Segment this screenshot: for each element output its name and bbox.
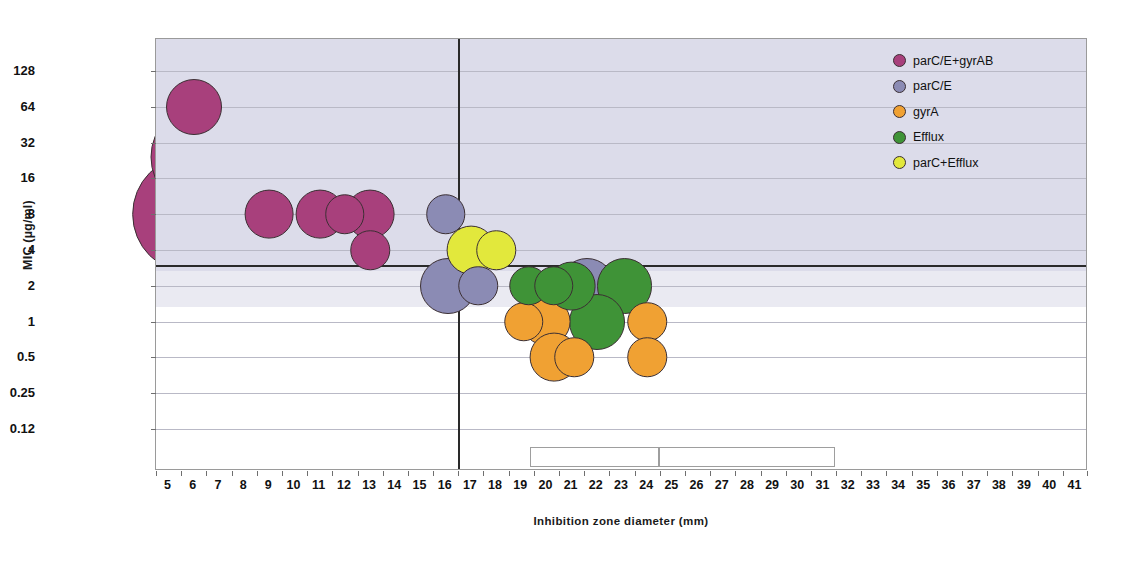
x-tick-label: 36	[935, 478, 961, 492]
y-tick-mark	[151, 71, 156, 72]
x-tick-label: 15	[406, 478, 432, 492]
legend-swatch-icon	[893, 105, 906, 118]
legend-item[interactable]: parC+Efflux	[893, 150, 1083, 176]
x-tick-mark	[1012, 471, 1013, 476]
gridline	[156, 250, 1086, 251]
data-point-bubble	[476, 230, 516, 270]
gridline	[156, 429, 1086, 430]
x-tick-label: 14	[381, 478, 407, 492]
x-tick-mark	[307, 471, 308, 476]
y-tick-mark	[151, 107, 156, 108]
gridline	[156, 393, 1086, 394]
x-tick-label: 30	[784, 478, 810, 492]
legend-item[interactable]: Efflux	[893, 125, 1083, 151]
x-tick-label: 37	[961, 478, 987, 492]
x-tick-mark	[332, 471, 333, 476]
x-tick-label: 34	[885, 478, 911, 492]
x-tick-mark	[156, 471, 157, 476]
y-tick-label: 4	[0, 242, 35, 257]
legend-item[interactable]: gyrA	[893, 99, 1083, 125]
x-tick-label: 25	[658, 478, 684, 492]
data-point-bubble	[627, 302, 667, 342]
x-tick-label: 32	[835, 478, 861, 492]
data-point-bubble	[166, 79, 222, 135]
x-tick-mark	[886, 471, 887, 476]
x-tick-label: 6	[180, 478, 206, 492]
x-tick-mark	[1087, 471, 1088, 476]
legend-item-label: parC/E+gyrAB	[913, 54, 993, 68]
x-tick-mark	[861, 471, 862, 476]
y-tick-mark	[151, 322, 156, 323]
data-point-bubble	[426, 194, 466, 234]
data-point-bubble	[350, 230, 390, 270]
y-tick-mark	[151, 143, 156, 144]
legend-item-label: gyrA	[913, 105, 939, 119]
x-tick-mark	[1038, 471, 1039, 476]
x-tick-label: 12	[331, 478, 357, 492]
x-tick-mark	[433, 471, 434, 476]
x-tick-label: 41	[1061, 478, 1087, 492]
x-tick-label: 28	[734, 478, 760, 492]
gridline	[156, 357, 1086, 358]
x-tick-mark	[559, 471, 560, 476]
x-tick-label: 9	[255, 478, 281, 492]
data-point-bubble	[554, 338, 594, 378]
x-tick-mark	[206, 471, 207, 476]
y-tick-mark	[151, 393, 156, 394]
x-tick-mark	[383, 471, 384, 476]
y-tick-label: 32	[0, 134, 35, 149]
y-tick-label: 2	[0, 277, 35, 292]
x-tick-label: 18	[482, 478, 508, 492]
legend-swatch-icon	[893, 54, 906, 67]
x-tick-label: 11	[306, 478, 332, 492]
y-tick-mark	[151, 250, 156, 251]
x-tick-label: 19	[507, 478, 533, 492]
x-tick-label: 33	[860, 478, 886, 492]
x-tick-mark	[761, 471, 762, 476]
x-tick-mark	[660, 471, 661, 476]
legend-swatch-icon	[893, 80, 906, 93]
x-tick-label: 10	[281, 478, 307, 492]
x-tick-label: 13	[356, 478, 382, 492]
x-tick-mark	[181, 471, 182, 476]
data-point-bubble	[627, 338, 667, 378]
x-tick-mark	[257, 471, 258, 476]
x-tick-mark	[786, 471, 787, 476]
legend-item[interactable]: parC/E	[893, 74, 1083, 100]
x-tick-label: 38	[986, 478, 1012, 492]
x-tick-label: 16	[432, 478, 458, 492]
x-tick-mark	[962, 471, 963, 476]
y-tick-mark	[151, 214, 156, 215]
legend-swatch-icon	[893, 156, 906, 169]
y-tick-label: 0.25	[0, 385, 35, 400]
x-tick-mark	[735, 471, 736, 476]
x-tick-mark	[937, 471, 938, 476]
y-tick-label: 0.5	[0, 349, 35, 364]
x-tick-mark	[408, 471, 409, 476]
x-tick-label: 24	[633, 478, 659, 492]
x-tick-mark	[609, 471, 610, 476]
data-point-bubble	[504, 302, 544, 342]
x-tick-label: 31	[810, 478, 836, 492]
y-tick-mark	[151, 178, 156, 179]
legend-item[interactable]: parC/E+gyrAB	[893, 48, 1083, 74]
x-tick-mark	[358, 471, 359, 476]
x-tick-mark	[232, 471, 233, 476]
legend-item-label: parC/E	[913, 79, 952, 93]
legend-swatch-icon	[893, 131, 906, 144]
y-tick-label: 0.12	[0, 421, 35, 436]
x-tick-label: 22	[583, 478, 609, 492]
x-tick-label: 26	[684, 478, 710, 492]
x-tick-mark	[282, 471, 283, 476]
x-tick-mark	[1063, 471, 1064, 476]
x-tick-label: 27	[709, 478, 735, 492]
x-tick-label: 23	[608, 478, 634, 492]
x-tick-mark	[987, 471, 988, 476]
x-tick-mark	[534, 471, 535, 476]
x-tick-mark	[509, 471, 510, 476]
y-tick-label: 64	[0, 98, 35, 113]
x-tick-label: 39	[1011, 478, 1037, 492]
annotation-box	[659, 447, 835, 467]
data-point-bubble	[459, 266, 499, 306]
annotation-box	[530, 447, 658, 467]
